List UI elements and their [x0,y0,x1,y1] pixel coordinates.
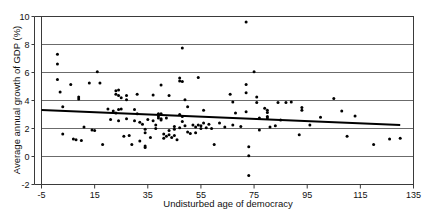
data-point [162,137,165,140]
data-point [168,133,171,136]
y-tick-label-10: 10 [19,12,29,22]
data-point [239,125,242,128]
data-point [173,128,176,131]
data-point [245,91,248,94]
data-point [346,135,349,138]
data-point [125,98,128,101]
data-point [98,82,101,85]
data-point [168,129,171,132]
data-point [194,131,197,134]
data-point [69,83,72,86]
y-tick-label-0: 0 [24,152,29,162]
data-point [88,82,91,85]
data-point [117,94,120,97]
data-point [186,105,189,108]
data-point [284,101,287,104]
data-point [266,111,269,114]
data-point [213,143,216,146]
data-point [218,121,221,124]
data-point [231,100,234,103]
data-point [117,89,120,92]
data-point [298,133,301,136]
data-point [372,143,375,146]
grid-lines [42,45,414,157]
data-point [152,119,155,122]
data-point [165,135,168,138]
data-point [146,118,149,121]
data-point [80,139,83,142]
y-tick-label--2: -2 [21,180,29,190]
data-point [154,127,157,130]
data-point [136,93,139,96]
data-point [197,76,200,79]
data-point [125,94,128,97]
data-point [247,174,250,177]
data-point [274,124,277,127]
data-points [56,21,402,177]
data-point [178,77,181,80]
data-point [231,124,234,127]
data-point [229,93,232,96]
x-tick-label-15: 15 [90,190,100,200]
data-point [245,110,248,113]
x-axis-title: Undisturbed age of democracy [163,198,293,209]
x-tick-label-55: 55 [196,190,206,200]
data-point [234,112,237,115]
data-point [59,91,62,94]
data-point [189,132,192,135]
data-point [160,119,163,122]
data-point [144,146,147,149]
data-point [300,109,303,112]
data-point [191,124,194,127]
data-point [199,124,202,127]
x-tick-label-35: 35 [143,190,153,200]
data-point [160,84,163,87]
data-point [122,135,125,138]
data-point [202,109,205,112]
data-point [354,114,357,117]
data-point [290,100,293,103]
data-point [181,80,184,83]
data-point [168,94,171,97]
data-point [255,96,258,99]
data-point [245,83,248,86]
x-tick-label-135: 135 [406,190,421,200]
x-tick-label-75: 75 [249,190,259,200]
data-point [96,70,99,73]
data-point [72,138,75,141]
data-point [253,70,256,73]
data-point [186,131,189,134]
data-point [210,127,213,130]
data-point [197,124,200,127]
data-point [56,53,59,56]
x-tick-label--5: -5 [37,190,45,200]
data-point [114,93,117,96]
data-point [276,101,279,104]
data-point [101,143,104,146]
data-point [138,121,141,124]
data-point [399,137,402,140]
data-point [117,108,120,111]
data-point [319,116,322,119]
data-point [93,129,96,132]
data-point [202,121,205,124]
data-point [120,107,123,110]
data-point [300,106,303,109]
data-point [149,136,152,139]
data-point [162,133,165,136]
data-point [258,128,261,131]
data-point [178,126,181,129]
data-point [170,136,173,139]
data-point [199,127,202,130]
data-point [117,119,120,122]
x-tick-label-115: 115 [353,190,367,200]
data-point [245,21,248,24]
data-point [194,126,197,129]
data-point [340,110,343,113]
data-point [181,120,184,123]
data-point [125,117,128,120]
data-point [61,133,64,136]
axis-ticks [32,17,414,189]
data-point [247,145,250,148]
y-tick-label-8: 8 [24,40,29,50]
